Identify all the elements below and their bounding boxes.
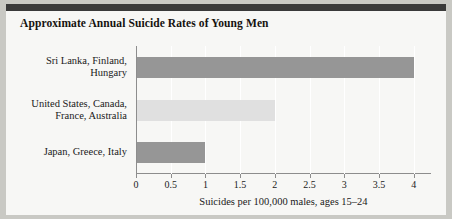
x-tick-label: 0.5	[164, 179, 177, 190]
header-rule	[6, 4, 446, 11]
x-tick	[310, 174, 311, 178]
x-axis-label: Suicides per 100,000 males, ages 15–24	[136, 196, 431, 207]
bar	[137, 57, 414, 78]
chart-title: Approximate Annual Suicide Rates of Youn…	[20, 17, 269, 29]
x-tick	[414, 174, 415, 178]
x-tick	[344, 174, 345, 178]
category-label: Japan, Greece, Italy	[7, 146, 136, 159]
x-tick-label: 3.5	[373, 179, 386, 190]
x-tick-label: 1	[203, 179, 208, 190]
chart-figure: Approximate Annual Suicide Rates of Youn…	[6, 4, 446, 215]
x-tick-label: 3	[342, 179, 347, 190]
x-tick	[275, 174, 276, 178]
category-label: United States, Canada, France, Australia	[7, 98, 136, 123]
bar	[137, 142, 205, 163]
x-tick-label: 4	[411, 179, 416, 190]
x-tick	[205, 174, 206, 178]
x-tick	[240, 174, 241, 178]
x-tick-label: 0	[134, 179, 139, 190]
x-axis-line	[136, 173, 431, 174]
x-tick	[379, 174, 380, 178]
x-tick	[136, 174, 137, 178]
plot-area: 00.511.522.533.54 Sri Lanka, Finland, Hu…	[136, 46, 431, 174]
x-tick-label: 2	[272, 179, 277, 190]
x-tick	[171, 174, 172, 178]
x-tick-label: 1.5	[234, 179, 247, 190]
x-tick-label: 2.5	[303, 179, 316, 190]
bar	[137, 100, 275, 121]
gridline	[414, 46, 415, 174]
category-label: Sri Lanka, Finland, Hungary	[7, 55, 136, 80]
